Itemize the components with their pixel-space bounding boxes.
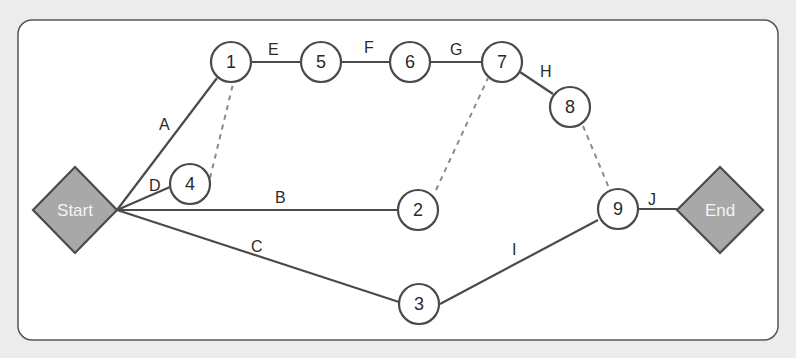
activity-label-a: A: [159, 116, 170, 133]
activity-label-g: G: [450, 41, 462, 58]
activity-label-d: D: [149, 177, 161, 194]
node-2-label: 2: [413, 200, 423, 220]
activity-label-b: B: [275, 189, 286, 206]
node-8-label: 8: [565, 97, 575, 117]
start-label: Start: [57, 201, 93, 220]
node-3-label: 3: [414, 294, 424, 314]
node-7-label: 7: [497, 52, 507, 72]
node-9-label: 9: [613, 199, 623, 219]
node-1-label: 1: [226, 52, 236, 72]
node-6-label: 6: [405, 52, 415, 72]
activity-label-f: F: [364, 39, 374, 56]
node-4-label: 4: [185, 174, 195, 194]
activity-label-h: H: [540, 63, 552, 80]
end-label: End: [705, 201, 735, 220]
activity-label-c: C: [251, 238, 263, 255]
network-diagram: A B C D E F G H I J Start End 1 2 3 4 5 …: [0, 0, 796, 358]
activity-label-j: J: [648, 191, 656, 208]
activity-label-i: I: [512, 241, 516, 258]
activity-label-e: E: [268, 41, 279, 58]
node-5-label: 5: [316, 52, 326, 72]
